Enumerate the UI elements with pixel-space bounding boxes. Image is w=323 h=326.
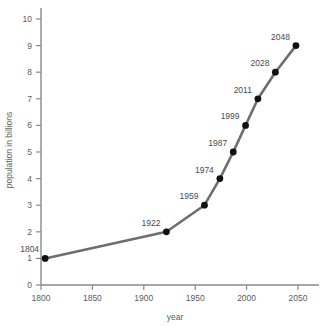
data-point-label: 1987: [208, 138, 227, 148]
data-point-marker: [216, 175, 223, 182]
data-point-marker: [201, 202, 208, 209]
data-point-marker: [242, 122, 249, 129]
x-axis-ticks: 180018501900195020002050: [32, 285, 308, 303]
y-tick-label: 0: [27, 280, 32, 290]
data-point-label: 2048: [271, 32, 290, 42]
y-tick-label: 5: [27, 147, 32, 157]
y-tick-label: 6: [27, 120, 32, 130]
data-point-label: 1999: [221, 111, 240, 121]
data-point-marker: [272, 69, 279, 76]
y-tick-label: 2: [27, 227, 32, 237]
data-point-label: 1959: [180, 191, 199, 201]
x-tick-label: 1800: [32, 293, 51, 303]
y-tick-label: 8: [27, 67, 32, 77]
y-tick-label: 7: [27, 94, 32, 104]
data-point-label: 1922: [141, 218, 160, 228]
x-tick-label: 1850: [83, 293, 102, 303]
x-tick-label: 2000: [237, 293, 256, 303]
data-point-labels: 180419221959197419871999201120282048: [20, 32, 290, 255]
x-axis-title: year: [167, 312, 184, 322]
x-tick-label: 2050: [289, 293, 308, 303]
population-growth-chart: 012345678910 180018501900195020002050 18…: [0, 0, 323, 326]
y-tick-label: 4: [27, 174, 32, 184]
data-point-marker: [42, 255, 49, 262]
chart-canvas: 012345678910 180018501900195020002050 18…: [0, 0, 323, 326]
data-point-marker: [255, 95, 262, 102]
x-tick-label: 1950: [186, 293, 205, 303]
y-tick-label: 9: [27, 41, 32, 51]
y-tick-label: 1: [27, 253, 32, 263]
data-point-label: 2011: [234, 85, 253, 95]
data-point-label: 2028: [250, 58, 269, 68]
data-point-label: 1804: [20, 244, 39, 254]
data-point-marker: [163, 228, 170, 235]
population-line-series: [45, 46, 296, 259]
x-tick-label: 1900: [134, 293, 153, 303]
data-point-marker: [230, 149, 237, 156]
data-point-label: 1974: [195, 165, 214, 175]
y-axis-title: population in billions: [4, 112, 14, 189]
y-tick-label: 10: [23, 14, 33, 24]
data-point-marker: [293, 42, 300, 49]
y-tick-label: 3: [27, 200, 32, 210]
